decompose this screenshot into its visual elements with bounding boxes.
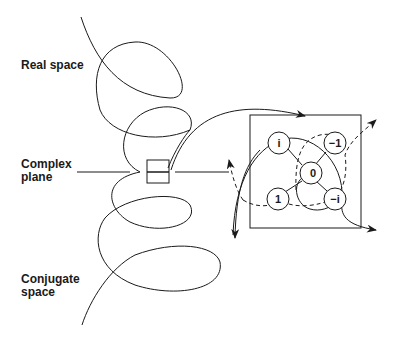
svg-text:0: 0 [310,167,316,179]
label-real-space: Real space [21,59,84,72]
node-i: i [268,132,290,154]
label-complex-plane-line2: plane [21,171,72,184]
solid-arc-left-end [235,150,260,238]
helix-curve [81,17,220,325]
node-negi: −i [324,188,346,210]
svg-text:i: i [277,137,280,149]
svg-text:−1: −1 [329,137,342,149]
diagram-canvas: i −1 0 1 −i Real space Complex plane Con… [0,0,395,344]
label-conjugate-space-line2: space [21,286,80,299]
edge-0-1 [285,181,302,192]
label-complex-plane: Complex plane [21,158,72,184]
node-one: 1 [267,188,289,210]
label-conjugate-space: Conjugate space [21,273,80,299]
svg-text:1: 1 [275,193,281,205]
solid-arc-outer [233,138,376,235]
dashed-arc-left [229,160,243,200]
edge-0-negi [316,181,327,191]
node-zero: 0 [300,162,322,184]
svg-text:−i: −i [330,193,339,205]
edge-i-0 [288,149,302,165]
node-neg1: −1 [324,132,346,154]
